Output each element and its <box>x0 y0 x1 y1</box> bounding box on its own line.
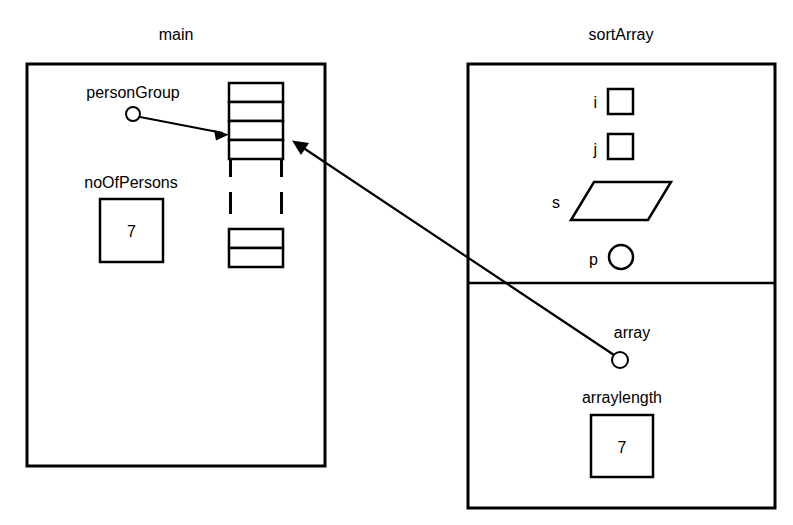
int-box-j <box>608 134 633 159</box>
label-arraylength: arraylength <box>582 389 662 406</box>
label-i: i <box>593 94 597 111</box>
value-arraylength: 7 <box>618 439 627 456</box>
label-array: array <box>614 324 650 341</box>
pointer-circle-personGroup <box>126 107 140 121</box>
array-cell <box>229 121 283 140</box>
array-cells-bottom <box>229 229 283 267</box>
pointer-circle-p <box>609 245 633 269</box>
array-cell <box>229 140 283 159</box>
label-s: s <box>552 194 560 211</box>
value-noOfPersons: 7 <box>127 223 136 240</box>
array-cell <box>229 83 283 102</box>
array-cell <box>229 248 283 267</box>
label-noOfPersons: noOfPersons <box>84 174 177 191</box>
label-personGroup: personGroup <box>86 84 179 101</box>
pointer-circle-array <box>612 352 628 368</box>
array-cell <box>229 229 283 248</box>
diagram-canvas: main personGroup noOfPersons 7 <box>0 0 793 525</box>
int-box-i <box>608 89 633 114</box>
memory-diagram: main personGroup noOfPersons 7 <box>0 0 793 525</box>
label-p: p <box>589 251 598 268</box>
label-j: j <box>592 141 597 158</box>
array-cell <box>229 102 283 121</box>
frame-title-sortArray: sortArray <box>589 26 654 43</box>
frame-title-main: main <box>159 26 194 43</box>
